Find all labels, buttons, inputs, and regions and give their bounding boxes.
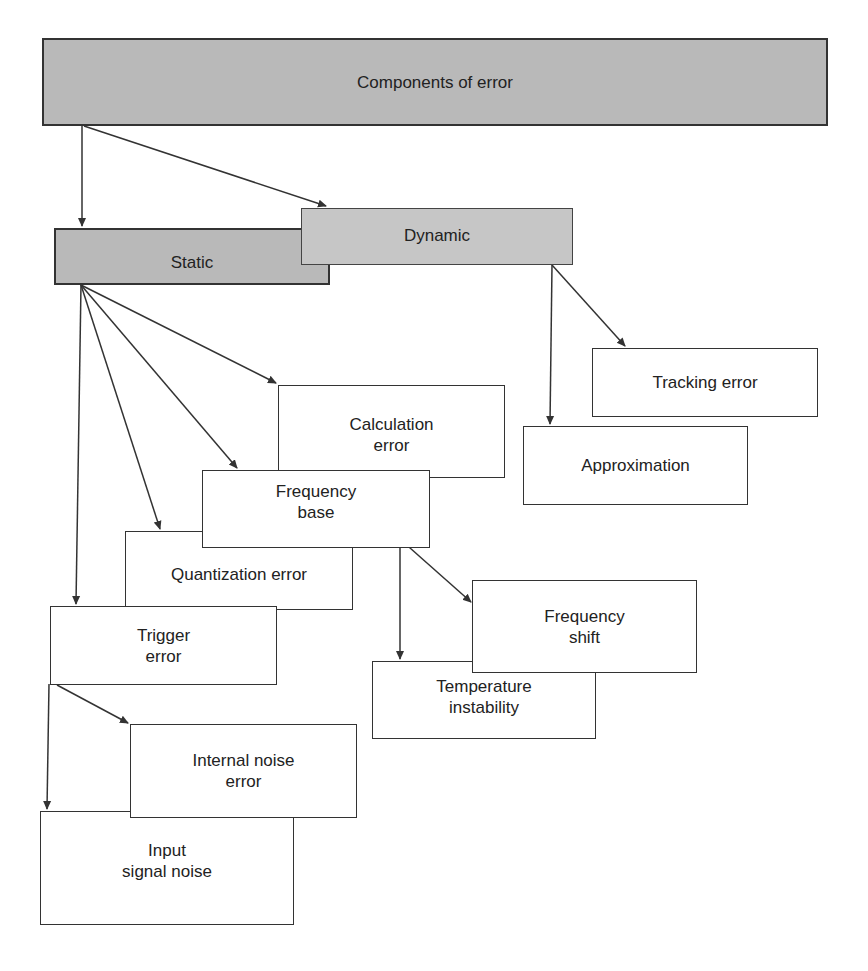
node-label: Trigger error [137,625,190,667]
node-label: Components of error [357,72,513,93]
node-label: Static [171,252,214,273]
node-label: Calculation error [349,414,433,456]
node-internal-noise-error: Internal noise error [130,724,357,818]
node-approximation: Approximation [523,426,748,505]
node-label: Temperature instability [436,676,531,718]
node-label: Tracking error [652,372,757,393]
node-static: Static [54,228,330,285]
node-label: Input signal noise [122,840,212,882]
node-dynamic: Dynamic [301,208,573,265]
node-label: Quantization error [171,564,307,585]
node-frequency-shift: Frequency shift [472,580,697,673]
node-label: Internal noise error [192,750,294,792]
node-label: Frequency base [276,481,356,523]
node-frequency-base: Frequency base [202,470,430,548]
node-label: Approximation [581,455,690,476]
node-label: Dynamic [404,225,470,246]
node-label: Frequency shift [544,606,624,648]
node-components-of-error: Components of error [42,38,828,126]
node-input-signal-noise: Input signal noise [40,811,294,925]
node-trigger-error: Trigger error [50,606,277,685]
diagram-canvas: Components of error Static Dynamic Track… [0,0,868,971]
node-calculation-error: Calculation error [278,385,505,478]
node-tracking-error: Tracking error [592,348,818,417]
